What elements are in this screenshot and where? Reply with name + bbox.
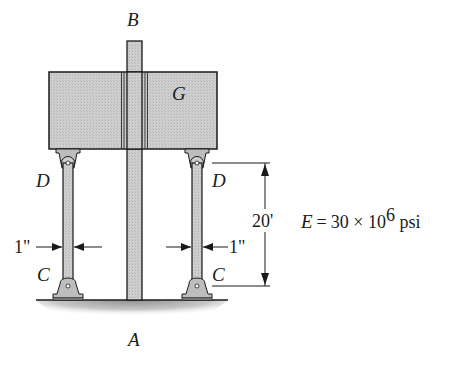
right-width-label: 1" [229, 237, 245, 257]
label-a: A [126, 329, 140, 350]
label-b: B [127, 9, 139, 30]
left-column-cd [53, 149, 83, 300]
label-g: G [172, 83, 186, 104]
label-d-left: D [35, 170, 50, 191]
height-label: 20' [252, 211, 273, 231]
right-column-cd [182, 149, 212, 300]
column-support-diagram: B A G D D C C 1" 1" 20' E=30 × 106 psi [0, 0, 474, 370]
label-c-right: C [212, 264, 225, 285]
rigid-block-g [49, 72, 217, 149]
material-modulus: E=30 × 106 psi [300, 205, 420, 232]
label-d-right: D [211, 170, 226, 191]
left-width-label: 1" [14, 237, 30, 257]
ground-support [36, 300, 228, 323]
label-c-left: C [37, 264, 50, 285]
